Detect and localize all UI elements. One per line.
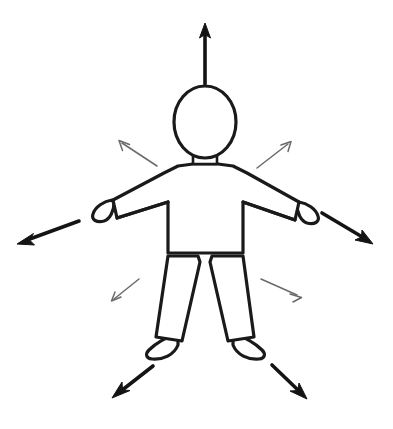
image-canvas (0, 0, 393, 429)
head (174, 86, 236, 158)
figure-illustration (0, 0, 393, 429)
